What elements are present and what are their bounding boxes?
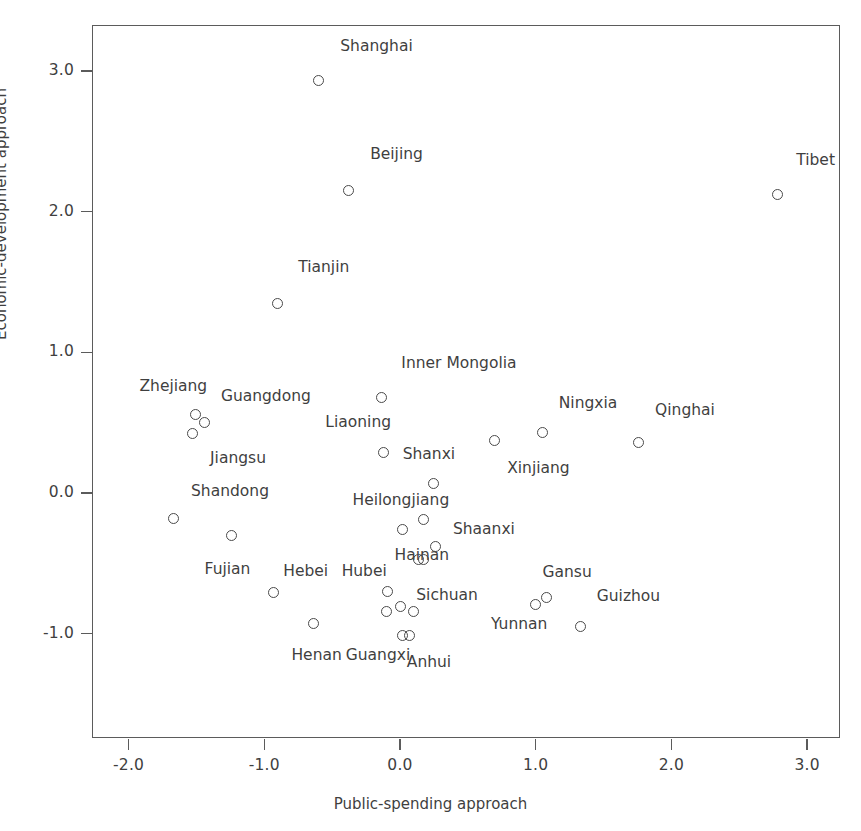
data-point-label: Shanxi (403, 445, 455, 463)
x-tick-mark (671, 739, 672, 750)
data-point-label: Guangdong (221, 387, 311, 405)
y-tick-label: 1.0 (26, 342, 74, 360)
data-point[interactable] (376, 392, 387, 403)
data-point-label: Tianjin (298, 258, 349, 276)
data-point-label: Zhejiang (139, 377, 207, 395)
x-tick-label: 2.0 (651, 756, 691, 774)
data-point[interactable] (530, 599, 541, 610)
data-point[interactable] (772, 189, 783, 200)
data-point[interactable] (541, 592, 552, 603)
data-point-label: Heilongjiang (353, 491, 450, 509)
x-tick-label: -2.0 (109, 756, 149, 774)
data-point[interactable] (378, 447, 389, 458)
data-point[interactable] (397, 630, 408, 641)
data-point-label: Sichuan (416, 586, 478, 604)
data-point-label: Yunnan (491, 615, 547, 633)
data-point[interactable] (190, 409, 201, 420)
data-point-label: Henan (291, 646, 341, 664)
y-tick-label: 2.0 (26, 202, 74, 220)
data-point-label: Gansu (542, 563, 591, 581)
data-point[interactable] (381, 606, 392, 617)
x-tick-mark (128, 739, 129, 750)
data-point-label: Hebei (283, 562, 328, 580)
x-tick-mark (399, 739, 400, 750)
x-tick-label: 3.0 (787, 756, 827, 774)
x-tick-label: 0.0 (380, 756, 420, 774)
data-point[interactable] (395, 601, 406, 612)
data-point[interactable] (408, 606, 419, 617)
data-point[interactable] (418, 514, 429, 525)
data-point[interactable] (537, 427, 548, 438)
data-point-label: Fujian (205, 560, 251, 578)
x-tick-label: -1.0 (244, 756, 284, 774)
y-tick-mark (81, 492, 92, 493)
data-point[interactable] (430, 541, 441, 552)
y-axis-label: Economic-development approach (0, 40, 10, 340)
data-point-label: Guangxi (346, 646, 410, 664)
data-point-label: Beijing (370, 145, 423, 163)
y-tick-mark (81, 70, 92, 71)
y-tick-mark (81, 352, 92, 353)
x-tick-label: 1.0 (516, 756, 556, 774)
y-tick-mark (81, 211, 92, 212)
data-point-label: Anhui (407, 653, 451, 671)
y-tick-label: 0.0 (26, 483, 74, 501)
x-axis-label: Public-spending approach (0, 795, 861, 813)
y-tick-label: -1.0 (26, 624, 74, 642)
data-point-label: Shaanxi (453, 520, 515, 538)
data-point-label: Inner Mongolia (401, 354, 516, 372)
data-point[interactable] (272, 298, 283, 309)
data-point[interactable] (418, 554, 429, 565)
x-tick-mark (535, 739, 536, 750)
scatter-plot-figure: -2.0-1.00.01.02.03.0 3.02.01.00.0-1.0 Sh… (0, 0, 861, 831)
data-point-label: Jiangsu (210, 449, 266, 467)
data-point-label: Ningxia (559, 394, 618, 412)
data-point-label: Shanghai (340, 37, 412, 55)
data-point-label: Hubei (342, 562, 387, 580)
data-point[interactable] (343, 185, 354, 196)
y-tick-mark (81, 633, 92, 634)
data-point[interactable] (308, 618, 319, 629)
data-point-label: Liaoning (325, 413, 391, 431)
data-point[interactable] (168, 513, 179, 524)
y-tick-label: 3.0 (26, 61, 74, 79)
data-point[interactable] (226, 530, 237, 541)
data-point-label: Xinjiang (507, 459, 570, 477)
data-point-label: Tibet (796, 151, 835, 169)
data-point-label: Shandong (191, 482, 269, 500)
x-tick-mark (806, 739, 807, 750)
x-tick-mark (264, 739, 265, 750)
data-point-label: Qinghai (655, 401, 715, 419)
data-point-label: Guizhou (597, 587, 660, 605)
